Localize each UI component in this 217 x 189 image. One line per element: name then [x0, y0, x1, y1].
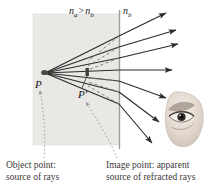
refracted-ray-2	[119, 30, 176, 47]
image-point-label: P'	[78, 88, 87, 100]
refracted-ray-7	[119, 104, 152, 143]
refracted-ray-3	[119, 44, 178, 58]
image-point-marker	[86, 68, 89, 76]
medium-a-label: na>nb	[69, 5, 94, 19]
image-point-caption: Image point: apparent source of refracte…	[106, 160, 195, 183]
image-caption-line-2: source of refracted rays	[106, 172, 195, 184]
object-point-label: P	[35, 78, 42, 90]
object-caption-line-2: source of rays	[6, 172, 59, 184]
refracted-ray-6	[119, 92, 159, 122]
object-point-caption: Object point: source of rays	[6, 160, 59, 183]
object-point-marker	[41, 70, 48, 75]
object-caption-line-1: Object point:	[6, 160, 59, 172]
refracted-ray-5	[119, 81, 166, 98]
medium-b-label: nb	[123, 5, 132, 19]
refraction-diagram: na>nb nb P P' Object point: source of ra…	[0, 0, 217, 189]
observer-eye-icon	[165, 92, 203, 147]
image-caption-line-1: Image point: apparent	[106, 160, 195, 172]
